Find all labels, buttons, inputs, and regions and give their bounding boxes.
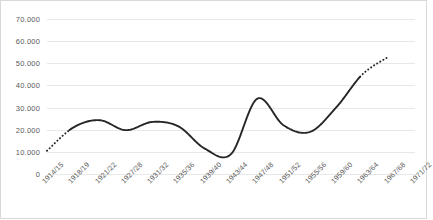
x-tick-label: 1963/64 <box>355 160 380 185</box>
x-tick-label: 1927/28 <box>119 160 144 185</box>
x-tick-label: 1939/40 <box>198 160 223 185</box>
x-tick-label: 1914/15 <box>40 160 65 185</box>
x-tick-label: 1971/72 <box>408 160 433 185</box>
x-axis: 1914/151918/191921/221927/281931/321935/… <box>1 1 428 220</box>
x-tick-label: 1943/44 <box>224 160 249 185</box>
x-tick-label: 1921/22 <box>93 160 118 185</box>
x-tick-label: 1967/68 <box>382 160 407 185</box>
x-tick-label: 1935/36 <box>171 160 196 185</box>
x-tick-label: 1959/60 <box>329 160 354 185</box>
x-tick-label: 1955/56 <box>303 160 328 185</box>
x-tick-label: 1931/32 <box>145 160 170 185</box>
x-tick-label: 1918/19 <box>66 160 91 185</box>
x-tick-label: 1951/52 <box>277 160 302 185</box>
x-tick-label: 1947/48 <box>250 160 275 185</box>
